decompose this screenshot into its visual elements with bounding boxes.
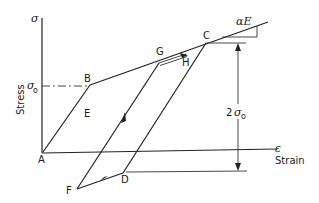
strain-axis-label: Strain [275,155,305,166]
strain-symbol: ε [275,142,281,155]
point-g-label: G [156,46,164,57]
point-f-label: F [66,185,72,196]
segment-cd [123,43,206,173]
point-e-label: E [84,108,90,119]
segment-ab [43,85,90,152]
arrow-down-icon [235,163,241,171]
range-prefix: 2 [226,107,232,118]
point-b-label: B [84,73,91,84]
strain-axis [42,149,277,153]
point-c-label: C [203,30,210,41]
range-subscript: o [241,112,246,121]
segment-bc-hardening [90,22,268,85]
point-h-label: H [182,57,190,68]
point-a-label: A [38,154,45,165]
point-d-label: D [121,174,129,185]
arrow-up-icon [235,43,241,51]
arrow-fg-icon [121,112,126,123]
reference-line-d [126,171,247,172]
stress-strain-diagram: σ Stress σ o ε Strain A B C D E F G H αE… [0,0,319,203]
yield-stress-subscript: o [33,86,38,95]
stress-axis-label: Stress [15,84,26,115]
stress-symbol: σ [31,12,39,25]
slope-label: αE [236,15,251,28]
